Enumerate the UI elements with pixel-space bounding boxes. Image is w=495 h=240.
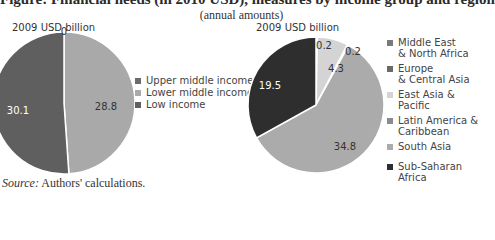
- legend-item: Latin America &Caribbean: [387, 115, 483, 137]
- slice-value-label: 34.8: [334, 141, 356, 152]
- legend-item: East Asia & Pacific: [387, 89, 483, 111]
- legend-label: East Asia & Pacific: [398, 89, 483, 111]
- legend-label: Latin America &Caribbean: [398, 115, 478, 137]
- legend-item: Sub-Saharan Africa: [387, 161, 483, 183]
- legend-region: Middle East& North AfricaEurope& Central…: [387, 37, 483, 187]
- legend-label: Europe& Central Asia: [398, 63, 470, 85]
- legend-label: South Asia: [398, 141, 451, 152]
- source-note: Source: Authors' calculations.: [2, 176, 145, 191]
- source-label: Source:: [2, 176, 39, 190]
- slice-value-label: 19.5: [259, 80, 281, 91]
- legend-swatch: [387, 92, 393, 98]
- legend-item: Middle East& North Africa: [387, 37, 483, 59]
- slice-value-label: 0: [302, 41, 308, 52]
- legend-swatch: [387, 66, 393, 72]
- legend-swatch: [387, 40, 393, 46]
- legend-swatch: [387, 118, 393, 124]
- legend-swatch: [387, 164, 393, 170]
- legend-item: Europe& Central Asia: [387, 63, 483, 85]
- legend-item: South Asia: [387, 141, 483, 152]
- slice-value-label: 4.3: [328, 63, 344, 74]
- legend-label: Middle East& North Africa: [398, 37, 469, 59]
- legend-label: Sub-Saharan Africa: [398, 161, 483, 183]
- slice-value-label: 0.2: [345, 46, 361, 57]
- legend-swatch: [387, 144, 393, 150]
- source-text: Authors' calculations.: [39, 176, 145, 190]
- slice-value-label: 0.2: [316, 40, 332, 51]
